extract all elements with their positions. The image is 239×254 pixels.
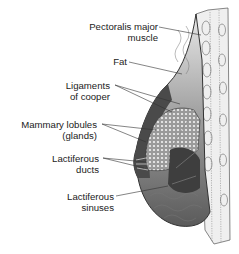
breast-body — [134, 14, 210, 226]
label-lactiferous-sinuses: Lactiferous sinuses — [67, 191, 114, 213]
label-ligaments-of-cooper: Ligaments of cooper — [66, 80, 110, 102]
label-pectoralis-major-muscle: Pectoralis major muscle — [89, 21, 158, 43]
label-lactiferous-ducts: Lactiferous ducts — [52, 153, 99, 175]
label-mammary-lobules: Mammary lobules (glands) — [21, 119, 97, 141]
label-fat: Fat — [113, 56, 127, 67]
